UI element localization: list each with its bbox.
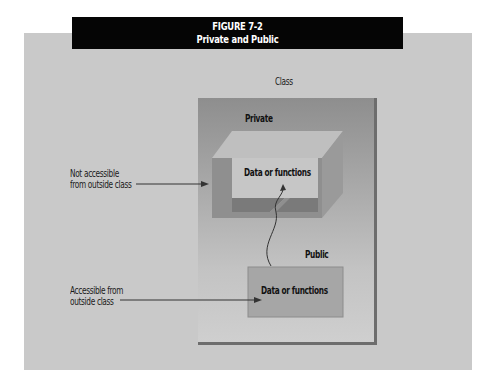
annotation-accessible: Accessible from outside class [70, 285, 123, 307]
public-data-text: Data or functions [261, 285, 328, 296]
private-data-text: Data or functions [244, 167, 311, 178]
public-label: Public [305, 249, 328, 260]
annotation-not-accessible: Not accessible from outside class [70, 168, 131, 190]
private-box-top-face [212, 131, 343, 158]
diagram-shapes [0, 0, 495, 389]
